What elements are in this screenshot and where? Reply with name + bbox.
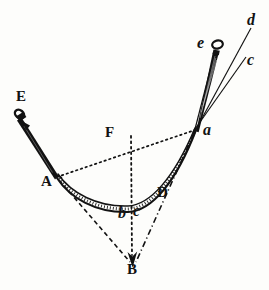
label-B: B — [127, 262, 137, 277]
arc-inner-edge — [58, 128, 195, 206]
label-c-upper: c — [247, 52, 254, 68]
label-A: A — [41, 174, 52, 189]
label-d: d — [247, 12, 255, 28]
label-b: b — [118, 205, 126, 221]
vertical-line-F-to-B-dotted — [131, 136, 132, 255]
label-E: E — [16, 89, 26, 104]
figure-canvas: E A F B D a b c e d c — [0, 0, 269, 290]
needle-head-upper-right — [211, 39, 223, 49]
label-a: a — [203, 122, 211, 138]
label-e: e — [197, 35, 204, 51]
arc-outer-edge — [57, 130, 196, 212]
needle-shaft-texture — [200, 56, 217, 118]
label-F: F — [105, 125, 114, 140]
label-D: D — [157, 185, 168, 200]
label-c-lower: c — [133, 203, 140, 219]
diagram-svg — [0, 0, 269, 290]
